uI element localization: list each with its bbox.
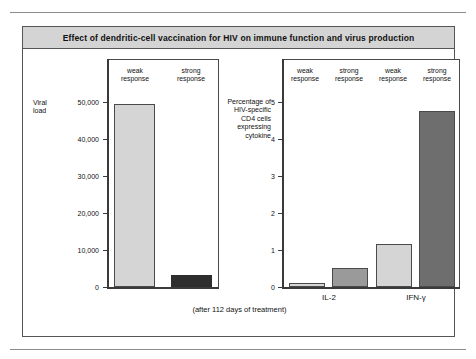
viral-load-column-label-weak: weakresponse [107, 67, 163, 83]
bottom-divider-rule [10, 349, 466, 350]
figure-title: Effect of dendritic-cell vaccination for… [63, 33, 415, 43]
y-tick-label: 40,000 [59, 136, 99, 143]
bar-il2-strong-response [332, 268, 368, 287]
y-axis-title-line: load [33, 107, 59, 115]
cytokine-column-label-ifng-strong: strongresponse [415, 67, 459, 83]
chart-viral-load: Viral load 50,000 40,000 30,000 20,000 1… [33, 55, 223, 300]
bar-il2-weak-response [289, 283, 325, 287]
y-tick-label: 10,000 [59, 247, 99, 254]
figure-title-bar: Effect of dendritic-cell vaccination for… [23, 27, 454, 49]
viral-load-x-axis [107, 287, 219, 289]
cytokine-group-label-ifng: IFN-γ [374, 293, 458, 302]
y-tick-label: 50,000 [59, 99, 99, 106]
cytokine-column-label-ifng-weak: weakresponse [371, 67, 415, 83]
y-tick-label: 3 [263, 173, 275, 180]
y-tick-label: 4 [263, 136, 275, 143]
cytokine-group-label-il2: IL-2 [287, 293, 371, 302]
viral-load-column-label-strong: strongresponse [163, 67, 219, 83]
cytokine-y-axis [282, 59, 284, 288]
cytokine-column-label-il2-weak: weakresponse [283, 67, 327, 83]
chart-cytokine-expression: Percentage of HIV-specific CD4 cells exp… [219, 55, 451, 300]
bar-viral-load-strong-response [171, 275, 212, 287]
y-axis-title-line: CD4 cells [219, 115, 271, 123]
figure-panel: Effect of dendritic-cell vaccination for… [22, 26, 455, 337]
cytokine-x-axis [282, 287, 460, 289]
y-axis-title-line: expressing [219, 123, 271, 131]
figure-caption: (after 112 days of treatment) [23, 305, 456, 314]
y-tick-label: 0 [263, 284, 275, 291]
y-axis-title-line: HIV-specific [219, 106, 271, 114]
top-divider-rule [10, 12, 466, 13]
y-tick-label: 20,000 [59, 210, 99, 217]
y-tick-label: 30,000 [59, 173, 99, 180]
y-tick-label: 1 [263, 247, 275, 254]
y-tick-label: 2 [263, 210, 275, 217]
y-tick-label: 5 [263, 99, 275, 106]
viral-load-y-axis [107, 59, 109, 288]
bar-ifng-strong-response [419, 111, 455, 287]
bar-viral-load-weak-response [114, 104, 155, 287]
y-axis-title-line: Viral [33, 99, 59, 107]
viral-load-y-axis-title: Viral load [33, 99, 59, 116]
cytokine-column-label-il2-strong: strongresponse [327, 67, 371, 83]
y-tick-label: 0 [59, 284, 99, 291]
bar-ifng-weak-response [376, 244, 412, 287]
